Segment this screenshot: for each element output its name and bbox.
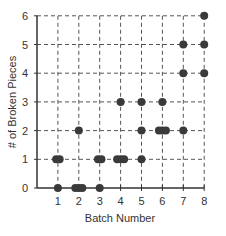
data-point (54, 184, 62, 192)
x-tick-label: 3 (97, 195, 103, 207)
data-point (162, 127, 170, 135)
x-tick-label: 8 (201, 195, 207, 207)
data-point (120, 155, 128, 163)
y-tick-label: 2 (22, 125, 28, 137)
data-point (179, 69, 187, 77)
data-point (96, 184, 104, 192)
data-point (200, 69, 208, 77)
data-point (200, 12, 208, 20)
data-point (97, 155, 105, 163)
data-point (117, 98, 125, 106)
data-point (138, 127, 146, 135)
y-tick-label: 3 (22, 96, 28, 108)
data-point (75, 127, 83, 135)
data-point (56, 155, 64, 163)
x-tick-label: 4 (118, 195, 124, 207)
x-tick-label: 5 (138, 195, 144, 207)
data-point (200, 41, 208, 49)
data-point (138, 155, 146, 163)
data-point (78, 184, 86, 192)
y-tick-label: 0 (22, 182, 28, 194)
scatter-chart: 123456780123456 Batch Number # of Broken… (0, 0, 226, 236)
data-point (179, 127, 187, 135)
y-tick-label: 4 (22, 67, 28, 79)
x-tick-label: 2 (76, 195, 82, 207)
data-point (179, 41, 187, 49)
x-tick-label: 1 (55, 195, 61, 207)
x-tick-label: 6 (159, 195, 165, 207)
tick-labels: 123456780123456 (22, 10, 207, 207)
y-tick-label: 6 (22, 10, 28, 22)
x-axis-label: Batch Number (85, 212, 156, 224)
x-tick-label: 7 (180, 195, 186, 207)
data-point (138, 98, 146, 106)
data-point (158, 98, 166, 106)
y-axis-label: # of Broken Pieces (6, 55, 18, 148)
y-tick-label: 1 (22, 153, 28, 165)
y-tick-label: 5 (22, 39, 28, 51)
